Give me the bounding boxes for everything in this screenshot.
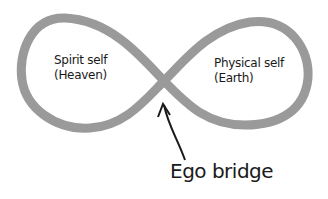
earth-text: (Earth) [214, 71, 284, 86]
physical-self-text: Physical self [214, 56, 284, 71]
arrow-head [158, 104, 170, 117]
ego-bridge-label: Ego bridge [170, 160, 273, 182]
heaven-text: (Heaven) [54, 68, 107, 83]
spirit-self-text: Spirit self [54, 53, 107, 68]
left-loop-label: Spirit self (Heaven) [54, 53, 107, 83]
right-loop-label: Physical self (Earth) [214, 56, 284, 86]
infinity-diagram [0, 0, 328, 199]
arrow-shaft [164, 105, 185, 160]
